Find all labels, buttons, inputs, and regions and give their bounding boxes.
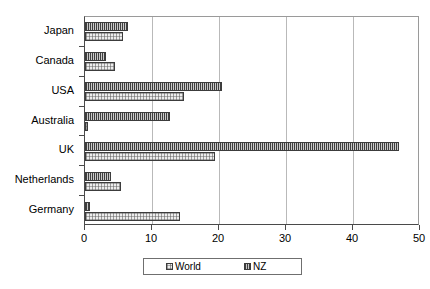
bar-world	[85, 92, 184, 101]
x-axis-label-20: 20	[198, 232, 238, 244]
x-axis-label-0: 0	[64, 232, 104, 244]
x-axis-tick	[218, 225, 219, 230]
bar-chart: JapanCanadaUSAAustraliaUKNetherlandsGerm…	[0, 0, 430, 289]
y-axis-label-germany: Germany	[0, 204, 79, 215]
bar-group	[85, 77, 418, 107]
bar-group	[85, 136, 418, 166]
y-axis-label-netherlands: Netherlands	[0, 174, 79, 185]
bar-world	[85, 32, 123, 41]
legend-item-world: World	[166, 262, 201, 272]
bar-nz	[85, 82, 222, 91]
legend-label-nz: NZ	[253, 262, 266, 272]
y-axis-label-canada: Canada	[0, 55, 79, 66]
x-axis-tick	[285, 225, 286, 230]
x-axis-label-40: 40	[332, 232, 372, 244]
bar-nz	[85, 22, 128, 31]
x-axis-label-50: 50	[399, 232, 430, 244]
x-axis-label-10: 10	[131, 232, 171, 244]
bar-world	[85, 62, 115, 71]
plot-area	[84, 16, 419, 225]
bar-world	[85, 152, 215, 161]
bar-group	[85, 107, 418, 137]
bar-world	[85, 122, 88, 131]
bar-group	[85, 17, 418, 47]
legend-item-nz: NZ	[244, 262, 266, 272]
chart-legend: World NZ	[143, 258, 302, 275]
x-axis-tick	[419, 225, 420, 230]
y-axis-label-uk: UK	[0, 144, 79, 155]
x-axis-tick	[151, 225, 152, 230]
bar-group	[85, 47, 418, 77]
legend-label-world: World	[175, 262, 201, 272]
bar-nz	[85, 52, 106, 61]
nz-swatch-icon	[244, 263, 251, 270]
y-axis-label-australia: Australia	[0, 115, 79, 126]
x-axis-label-30: 30	[265, 232, 305, 244]
bar-nz	[85, 112, 170, 121]
bar-nz	[85, 142, 399, 151]
world-swatch-icon	[166, 263, 173, 270]
bar-nz	[85, 172, 111, 181]
y-axis-label-usa: USA	[0, 85, 79, 96]
bar-rows	[85, 17, 418, 224]
x-axis-tick	[352, 225, 353, 230]
bar-nz	[85, 202, 90, 211]
bar-world	[85, 182, 121, 191]
x-axis-tick	[84, 225, 85, 230]
bar-group	[85, 166, 418, 196]
bar-group	[85, 196, 418, 226]
y-axis-label-japan: Japan	[0, 25, 79, 36]
bar-world	[85, 212, 180, 221]
